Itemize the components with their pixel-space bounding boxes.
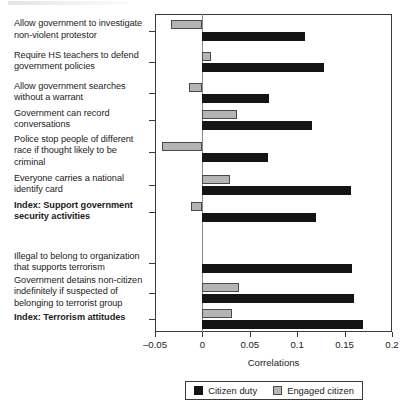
x-axis-title: Correlations	[155, 357, 392, 368]
bar-engaged-citizen-2	[189, 83, 202, 92]
category-label-2: Allow government searcheswithout a warra…	[14, 81, 154, 104]
category-label-1-line-0: Require HS teachers to defend	[14, 50, 154, 61]
category-label-1-line-1: government policies	[14, 61, 154, 72]
y-axis-tick-7	[149, 263, 155, 264]
chart-legend: Citizen duty Engaged citizen	[185, 381, 363, 400]
category-label-0-line-1: non-violent protestor	[14, 30, 154, 41]
category-label-4: Police stop people of differentrace if t…	[14, 134, 154, 168]
category-label-1: Require HS teachers to defendgovernment …	[14, 50, 154, 73]
category-label-2-line-1: without a warrant	[14, 92, 154, 103]
legend-entry-engaged-citizen: Engaged citizen	[273, 385, 354, 396]
bar-engaged-citizen-5	[202, 175, 229, 184]
bar-citizen-duty-4	[202, 153, 267, 162]
bar-engaged-citizen-4	[162, 142, 203, 151]
category-label-3: Government can recordconversations	[14, 108, 154, 131]
bar-citizen-duty-6	[202, 213, 316, 222]
bar-citizen-duty-7	[202, 264, 352, 273]
x-axis-tick-label-5: 0.2	[385, 339, 398, 350]
legend-label-engaged-citizen: Engaged citizen	[287, 385, 354, 396]
y-axis-tick-0	[149, 31, 155, 32]
category-label-column: Allow government to investigatenon-viole…	[0, 0, 152, 340]
category-label-4-line-2: criminal	[14, 157, 154, 168]
category-label-7-line-0: Illegal to belong to organization	[14, 251, 154, 262]
category-label-0-line-0: Allow government to investigate	[14, 18, 154, 29]
bar-citizen-duty-5	[202, 186, 351, 195]
bar-citizen-duty-0	[202, 32, 304, 41]
y-axis-tick-4	[149, 152, 155, 153]
bar-engaged-citizen-1	[202, 52, 211, 61]
category-label-5-line-1: identify card	[14, 184, 154, 195]
x-axis-tick-1	[202, 332, 203, 337]
legend-entry-citizen-duty: Citizen duty	[194, 385, 257, 396]
category-label-9: Index: Terrorism attitudes	[14, 312, 154, 323]
category-label-7: Illegal to belong to organizationthat su…	[14, 251, 154, 274]
category-label-5-line-0: Everyone carries a national	[14, 173, 154, 184]
category-label-9-line-0: Index: Terrorism attitudes	[14, 312, 154, 323]
category-label-8-line-0: Government detains non-citizen	[14, 275, 154, 286]
bar-engaged-citizen-8	[202, 283, 239, 292]
category-label-3-line-0: Government can record	[14, 108, 154, 119]
bar-engaged-citizen-0	[171, 20, 202, 29]
x-axis-tick-2	[250, 332, 251, 337]
bar-citizen-duty-3	[202, 121, 312, 130]
x-axis-tick-label-0: –0.05	[143, 339, 167, 350]
legend-label-citizen-duty: Citizen duty	[208, 385, 257, 396]
x-axis-tick-label-3: 0.1	[291, 339, 304, 350]
category-label-8-line-1: indefinitely if suspected of	[14, 286, 154, 297]
correlations-bar-chart: Allow government to investigatenon-viole…	[0, 0, 410, 415]
bar-engaged-citizen-6	[191, 202, 202, 211]
category-label-4-line-1: race if thought likely to be	[14, 145, 154, 156]
x-axis-tick-0	[155, 332, 156, 337]
y-axis-tick-5	[149, 185, 155, 186]
category-label-2-line-0: Allow government searches	[14, 81, 154, 92]
category-label-0: Allow government to investigatenon-viole…	[14, 18, 154, 41]
y-axis-tick-3	[149, 120, 155, 121]
category-label-8: Government detains non-citizenindefinite…	[14, 275, 154, 309]
x-axis-tick-label-1: 0	[200, 339, 205, 350]
bar-engaged-citizen-9	[202, 309, 231, 318]
plot-area	[155, 14, 392, 332]
category-label-8-line-2: belonging to terrorist group	[14, 298, 154, 309]
category-label-4-line-0: Police stop people of different	[14, 134, 154, 145]
y-axis-tick-2	[149, 93, 155, 94]
category-label-6-line-0: Index: Support government	[14, 200, 154, 211]
y-axis-tick-8	[149, 293, 155, 294]
legend-swatch-icon-engaged-citizen	[273, 386, 282, 395]
bar-citizen-duty-1	[202, 63, 323, 72]
x-axis-tick-4	[345, 332, 346, 337]
bar-citizen-duty-2	[202, 94, 268, 103]
category-label-6-line-1: security activities	[14, 211, 154, 222]
category-label-3-line-1: conversations	[14, 119, 154, 130]
legend-swatch-icon-citizen-duty	[194, 386, 203, 395]
category-label-7-line-1: that supports terrorism	[14, 262, 154, 273]
bar-engaged-citizen-3	[202, 110, 237, 119]
x-axis-tick-3	[297, 332, 298, 337]
y-axis-tick-9	[149, 319, 155, 320]
bar-citizen-duty-9	[202, 320, 362, 329]
x-axis-tick-5	[392, 332, 393, 337]
category-label-6: Index: Support governmentsecurity activi…	[14, 200, 154, 223]
bar-citizen-duty-8	[202, 294, 354, 303]
x-axis-tick-label-2: 0.05	[240, 339, 259, 350]
x-axis-tick-label-4: 0.15	[335, 339, 354, 350]
category-label-5: Everyone carries a nationalidentify card	[14, 173, 154, 196]
y-axis-tick-1	[149, 62, 155, 63]
y-axis-tick-6	[149, 212, 155, 213]
